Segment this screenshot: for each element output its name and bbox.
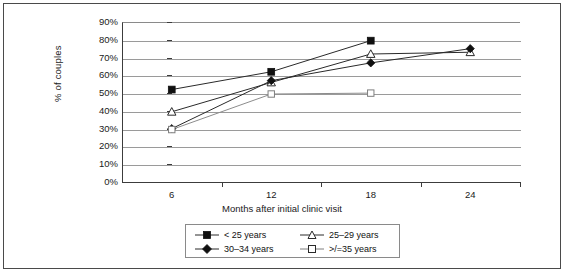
- legend-item-gte35[interactable]: >/=35 years: [299, 242, 377, 256]
- filled-square-icon: [194, 229, 220, 241]
- x-tick-label-12: 12: [251, 190, 291, 200]
- y-tick-mark-0: [167, 182, 172, 183]
- legend-item-lt25[interactable]: < 25 years: [194, 228, 266, 242]
- y-tick-mark-20: [167, 146, 172, 147]
- y-tick-mark-40: [167, 111, 172, 112]
- legend-label-gte35: >/=35 years: [329, 245, 377, 254]
- x-tick-mark-3: [421, 182, 422, 187]
- filled-diamond-icon: [194, 243, 220, 255]
- x-tick-mark-4: [520, 182, 521, 187]
- y-tick-label-60: 60%: [58, 71, 118, 81]
- legend-label-25-29: 25–29 years: [329, 231, 379, 240]
- y-tick-label-80: 80%: [58, 35, 118, 45]
- gridline-80: [123, 41, 521, 42]
- legend-item-25-29[interactable]: 25–29 years: [299, 228, 379, 242]
- gridline-40: [123, 112, 521, 113]
- x-tick-mark-2: [321, 182, 322, 187]
- y-tick-mark-90: [167, 22, 172, 23]
- y-tick-mark-60: [167, 75, 172, 76]
- plot-area: [122, 22, 520, 182]
- x-tick-label-24: 24: [450, 190, 490, 200]
- gridline-60: [123, 76, 521, 77]
- y-tick-mark-70: [167, 58, 172, 59]
- y-tick-label-30: 30%: [58, 124, 118, 134]
- open-triangle-icon: [299, 229, 325, 241]
- y-tick-label-90: 90%: [58, 17, 118, 27]
- y-tick-label-40: 40%: [58, 106, 118, 116]
- y-tick-mark-10: [167, 164, 172, 165]
- x-tick-label-18: 18: [351, 190, 391, 200]
- y-axis-ticks: 90% 80% 70% 60% 50% 40% 30% 20% 10% 0%: [50, 0, 118, 272]
- legend-label-lt25: < 25 years: [224, 231, 266, 240]
- y-tick-label-20: 20%: [58, 142, 118, 152]
- y-tick-mark-80: [167, 40, 172, 41]
- chart-legend: < 25 years 25–29 years 30–34 years >/=35…: [185, 224, 400, 258]
- y-tick-label-70: 70%: [58, 53, 118, 63]
- x-axis-title: Months after initial clinic visit: [0, 203, 564, 214]
- y-tick-label-0: 0%: [58, 177, 118, 187]
- y-tick-label-50: 50%: [58, 88, 118, 98]
- y-axis-title: % of couples: [52, 45, 63, 102]
- legend-label-30-34: 30–34 years: [224, 245, 274, 254]
- y-tick-mark-30: [167, 129, 172, 130]
- gridline-70: [123, 59, 521, 60]
- gridline-20: [123, 147, 521, 148]
- gridline-30: [123, 130, 521, 131]
- x-tick-mark-1: [222, 182, 223, 187]
- y-tick-label-10: 10%: [58, 159, 118, 169]
- gridline-10: [123, 165, 521, 166]
- y-tick-mark-50: [167, 93, 172, 94]
- gridline-50: [123, 94, 521, 95]
- legend-item-30-34[interactable]: 30–34 years: [194, 242, 274, 256]
- open-square-icon: [299, 243, 325, 255]
- chart-figure: 90% 80% 70% 60% 50% 40% 30% 20% 10% 0% %…: [0, 0, 564, 272]
- x-tick-label-6: 6: [152, 190, 192, 200]
